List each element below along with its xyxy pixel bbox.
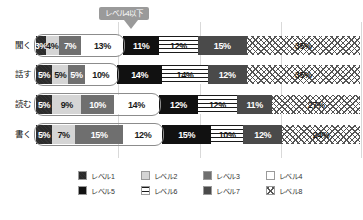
bar-segment: 14% [117, 65, 162, 84]
segment-value-label: 3% [36, 41, 46, 51]
segment-value-label: 35% [295, 70, 312, 80]
segment-value-label: 5% [38, 100, 50, 110]
bar-segment: 11% [123, 36, 159, 55]
bar-segment: 13% [81, 36, 123, 55]
legend-swatch-icon [266, 186, 275, 195]
bar-segment: 11% [237, 95, 273, 114]
legend-swatch-icon [203, 186, 212, 195]
segment-value-label: 14% [128, 100, 145, 110]
bar-segment: 24% [282, 125, 360, 144]
bar-segment: 12% [208, 65, 247, 84]
segment-value-label: 10% [219, 130, 236, 140]
legend-label: レベル3 [216, 171, 240, 181]
legend-item-lv2[interactable]: レベル2 [141, 171, 204, 181]
segment-value-label: 10% [89, 100, 106, 110]
bar-segment: 35% [247, 65, 360, 84]
row-label-3: 書く [2, 125, 32, 144]
legend-swatch-icon [203, 171, 212, 180]
legend-swatch-icon [266, 171, 275, 180]
stacked-bar: 3%4%7%13%11%12%15%35% [36, 36, 360, 55]
bar-segment: 10% [85, 65, 117, 84]
stacked-bar-chart: レベル4以下 聞く3%4%7%13%11%12%15%35%話す5%5%5%10… [0, 0, 363, 220]
legend-label: レベル8 [279, 186, 303, 196]
bar-segment: 12% [243, 125, 282, 144]
legend-item-lv1[interactable]: レベル1 [78, 171, 141, 181]
bar-segment: 12% [123, 125, 162, 144]
segment-value-label: 15% [91, 130, 108, 140]
bar-segment: 27% [272, 95, 359, 114]
legend-label: レベル7 [216, 186, 240, 196]
bar-segment: 35% [247, 36, 360, 55]
legend-item-lv8[interactable]: レベル8 [266, 186, 329, 196]
legend-swatch-icon [141, 186, 150, 195]
segment-value-label: 5% [38, 130, 50, 140]
legend-item-lv4[interactable]: レベル4 [266, 171, 329, 181]
bar-segment: 12% [159, 95, 198, 114]
bar-segment: 5% [36, 65, 52, 84]
segment-value-label: 12% [209, 100, 226, 110]
segment-value-label: 7% [64, 41, 76, 51]
legend-swatch-icon [141, 171, 150, 180]
bar-segment: 10% [81, 95, 113, 114]
legend-row: レベル1レベル2レベル3レベル4 [78, 168, 328, 183]
segment-value-label: 12% [254, 130, 271, 140]
bar-segment: 7% [59, 36, 82, 55]
bar-segment: 14% [114, 95, 159, 114]
chart-legend: レベル1レベル2レベル3レベル4 レベル5レベル6レベル7レベル8 [78, 168, 328, 198]
legend-item-lv7[interactable]: レベル7 [203, 186, 266, 196]
bar-segment: 15% [162, 125, 211, 144]
bar-segment: 7% [52, 125, 75, 144]
segment-value-label: 24% [313, 130, 330, 140]
legend-row: レベル5レベル6レベル7レベル8 [78, 183, 328, 198]
legend-label: レベル4 [279, 171, 303, 181]
legend-swatch-icon [78, 171, 87, 180]
legend-swatch-icon [78, 186, 87, 195]
segment-value-label: 13% [94, 41, 111, 51]
legend-item-lv6[interactable]: レベル6 [141, 186, 204, 196]
segment-value-label: 12% [134, 130, 151, 140]
bar-segment: 12% [198, 95, 237, 114]
stacked-bar: 5%9%10%14%12%12%11%27% [36, 95, 360, 114]
segment-value-label: 11% [133, 41, 149, 51]
segment-value-label: 11% [246, 100, 262, 110]
legend-item-lv3[interactable]: レベル3 [203, 171, 266, 181]
bar-segment: 5% [36, 125, 52, 144]
segment-value-label: 14% [131, 70, 148, 80]
bar-segment: 3% [36, 36, 46, 55]
stacked-bar: 5%7%15%12%15%10%12%24% [36, 125, 360, 144]
legend-item-lv5[interactable]: レベル5 [78, 186, 141, 196]
segment-value-label: 12% [170, 41, 187, 51]
bar-segment: 14% [162, 65, 207, 84]
row-label-2: 読む [2, 95, 32, 114]
legend-label: レベル2 [154, 171, 178, 181]
segment-value-label: 5% [54, 70, 66, 80]
legend-label: レベル6 [154, 186, 178, 196]
segment-value-label: 12% [170, 100, 187, 110]
bar-segment: 9% [52, 95, 81, 114]
segment-value-label: 35% [295, 41, 312, 51]
bar-segment: 15% [75, 125, 124, 144]
bar-segment: 4% [46, 36, 59, 55]
legend-label: レベル1 [91, 171, 115, 181]
segment-value-label: 4% [46, 41, 58, 51]
bar-segment: 5% [68, 65, 84, 84]
row-label-1: 話す [2, 65, 32, 84]
bar-segment: 5% [52, 65, 68, 84]
bar-segment: 5% [36, 95, 52, 114]
segment-value-label: 5% [70, 70, 82, 80]
stacked-bar: 5%5%5%10%14%14%12%35% [36, 65, 360, 84]
segment-value-label: 15% [214, 41, 231, 51]
row-label-0: 聞く [2, 36, 32, 55]
bar-segment: 12% [159, 36, 198, 55]
callout-label: レベル4以下 [99, 7, 149, 20]
segment-value-label: 14% [177, 70, 194, 80]
callout-arrow-icon [124, 20, 138, 29]
segment-value-label: 9% [61, 100, 73, 110]
segment-value-label: 10% [92, 70, 109, 80]
segment-value-label: 7% [57, 130, 69, 140]
segment-value-label: 12% [219, 70, 236, 80]
bar-segment: 15% [198, 36, 247, 55]
gridline [361, 22, 362, 158]
segment-value-label: 27% [308, 100, 325, 110]
legend-label: レベル5 [91, 186, 115, 196]
